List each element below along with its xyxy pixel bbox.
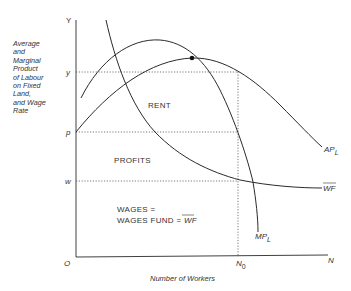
tick-n0: N0 — [236, 259, 246, 270]
guide-lines — [76, 72, 238, 257]
rent-label: RENT — [148, 101, 171, 110]
wf-curve-label: WF — [323, 184, 337, 193]
x-axis-label: Number of Workers — [150, 274, 215, 283]
mp-curve-label: MPL — [255, 232, 271, 243]
mp-curve — [81, 40, 258, 232]
tick-w: w — [65, 177, 72, 186]
max-ap-point — [190, 56, 195, 61]
wages-fund-text: WAGES FUND = — [117, 216, 184, 225]
tick-n0-sub: 0 — [242, 263, 246, 270]
x-axis — [76, 255, 328, 257]
x-axis-end-label: N — [328, 256, 334, 265]
mp-base: MP — [255, 232, 268, 241]
tick-y: y — [65, 68, 71, 77]
wages-wf-text: WF — [184, 216, 198, 225]
wages-label-line2: WAGES FUND = WF — [117, 216, 198, 225]
wages-label-line1: WAGES = — [117, 205, 156, 214]
ap-base: AP — [323, 145, 335, 154]
ap-sub: L — [335, 149, 339, 156]
ap-curve — [76, 58, 322, 147]
mp-sub: L — [267, 236, 271, 243]
profits-label: PROFITS — [114, 156, 151, 165]
y-axis-end-label: Y — [66, 16, 72, 25]
tick-p: p — [65, 128, 71, 137]
origin-label: O — [64, 259, 70, 268]
ap-curve-label: APL — [323, 145, 339, 156]
economics-diagram: Y y p w O N N0 Number of Workers RENT PR… — [0, 0, 351, 291]
